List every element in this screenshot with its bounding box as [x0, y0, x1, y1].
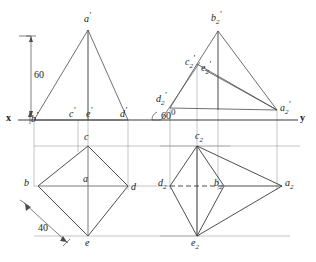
left-elevation-outline [34, 30, 128, 120]
plan-edge-d-e [88, 186, 128, 236]
vertex-label-c2-prime: c2' [185, 54, 195, 70]
plan-edge-c-d [88, 146, 128, 186]
degree-symbol: 0 [171, 107, 176, 117]
plan-edge-c-b [38, 146, 88, 186]
vertex-label-a2: a2 [285, 178, 294, 191]
dimension-label-60: 60 [34, 70, 44, 80]
vertex-label-d-prime: d' [120, 106, 127, 119]
vertex-label-e2-prime: e2' [201, 60, 211, 76]
vertex-label-e-prime: e' [86, 106, 92, 119]
vertex-label-b-prime: b' [31, 111, 38, 124]
construction-lines [34, 30, 300, 236]
dim60-arrow-top [29, 36, 33, 42]
dimension-label-40: 40 [38, 223, 48, 233]
engineering-drawing-canvas: x y 60 40 600 a' b' c' e' d' b2' c2' e2'… [0, 0, 316, 262]
right-plan-outline [170, 146, 282, 236]
vertex-label-c2: c2 [195, 131, 203, 144]
vertex-label-a: a [83, 174, 88, 184]
angle-value: 60 [161, 110, 171, 121]
axis-label-y: y [300, 113, 305, 123]
vertex-label-e: e [85, 238, 89, 248]
vertex-label-a2-prime: a2' [280, 100, 290, 116]
rplan-c2-a2 [197, 146, 282, 186]
edge-d2p-a2p [170, 108, 277, 110]
rplan-c2-d2 [170, 146, 197, 186]
rplan-d2-e2 [170, 186, 197, 236]
vertex-label-c-prime: c' [69, 106, 75, 119]
vertex-label-d2-prime: d2' [156, 91, 166, 107]
angle-arc [152, 112, 157, 120]
right-elevation-outline [170, 31, 277, 110]
vertex-label-b: b [24, 178, 29, 188]
vertex-label-e2: e2 [191, 238, 199, 251]
axis-label-x: x [6, 113, 11, 123]
vertex-label-b2-prime: b2' [211, 10, 221, 26]
vertex-label-c: c [84, 132, 88, 142]
vertex-label-d: d [131, 182, 136, 192]
left-plan-diagonals [38, 146, 128, 236]
rplan-e2-a2 [197, 186, 282, 236]
edge-a2p-b2p [218, 31, 277, 110]
vertex-label-d2: d2 [158, 178, 167, 191]
vertex-label-b2: b2 [214, 178, 223, 191]
vertex-label-a-prime: a' [84, 11, 91, 24]
left-plan-outline [38, 146, 128, 236]
dim40-tick-start [20, 200, 29, 206]
angle-label-60: 600 [161, 108, 176, 121]
